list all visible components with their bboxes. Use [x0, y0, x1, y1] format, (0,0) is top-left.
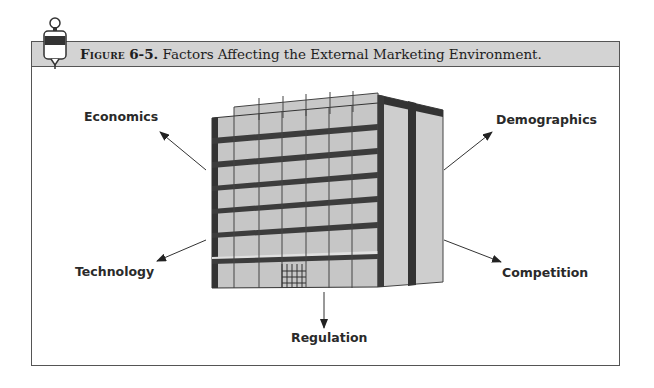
office-building-illustration — [212, 91, 443, 288]
factor-competition: Competition — [502, 265, 588, 280]
factor-technology: Technology — [75, 264, 154, 279]
arrow-competition — [444, 240, 501, 262]
arrow-technology — [157, 240, 206, 261]
factor-regulation: Regulation — [291, 330, 367, 345]
arrow-economics — [160, 132, 206, 170]
factor-economics: Economics — [84, 109, 158, 124]
arrow-demographics — [444, 132, 492, 170]
factor-demographics: Demographics — [496, 112, 597, 127]
